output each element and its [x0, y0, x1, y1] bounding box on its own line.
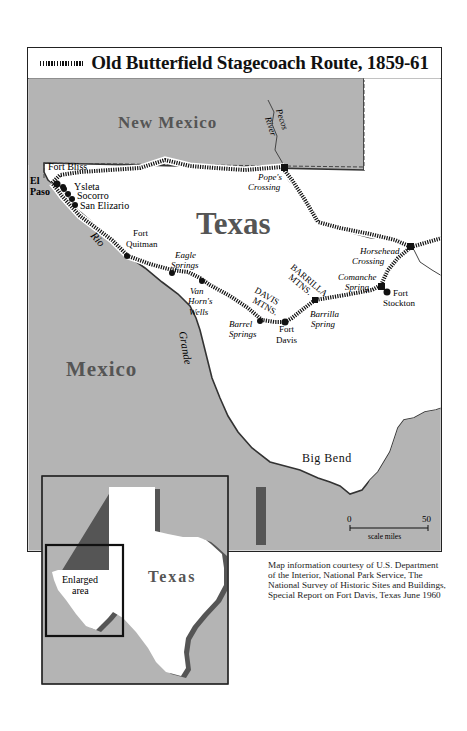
ysleta-marker — [65, 191, 71, 197]
svg-text:Crossing: Crossing — [248, 182, 281, 192]
comanche-spring-marker — [378, 283, 385, 290]
svg-text:Springs: Springs — [171, 260, 199, 270]
label-popes-crossing: Pope's — [257, 172, 282, 182]
label-fort-davis: Fort — [279, 324, 295, 334]
svg-text:Paso: Paso — [30, 186, 50, 197]
map-credit: Map information courtesy of U.S. Departm… — [268, 560, 448, 600]
inset-label-texas: Texas — [148, 568, 197, 585]
horsehead-crossing-marker — [407, 243, 414, 250]
label-barrel-springs: Barrel — [229, 319, 253, 329]
label-fort-stockton: Fort — [393, 288, 409, 298]
scale-label: scale miles — [368, 532, 401, 541]
san-elizario-marker — [72, 202, 78, 208]
label-van-horns-wells: Van — [190, 286, 204, 296]
label-san-elizario: San Elizario — [80, 200, 129, 211]
popes-crossing-marker — [281, 164, 288, 171]
label-fort-quitman: Fort — [133, 228, 149, 238]
inset-shadow — [256, 487, 266, 545]
scale-max: 50 — [422, 514, 432, 524]
label-comanche-spring: Comanche — [338, 272, 377, 282]
fort-quitman-marker — [124, 253, 130, 259]
svg-text:Crossing: Crossing — [352, 256, 385, 266]
svg-text:Davis: Davis — [276, 335, 297, 345]
label-fort-bliss: Fort Bliss — [48, 161, 87, 172]
svg-text:Horn's: Horn's — [187, 296, 213, 306]
label-horsehead-crossing: Horsehead — [359, 246, 400, 256]
svg-text:Stockton: Stockton — [383, 298, 416, 308]
region-label-new-mexico: New Mexico — [118, 113, 217, 132]
region-label-texas: Texas — [196, 206, 271, 241]
fort-stockton-marker — [384, 289, 391, 296]
svg-text:Spring: Spring — [345, 282, 370, 292]
socorro-marker — [69, 196, 75, 202]
region-label-mexico: Mexico — [66, 357, 137, 381]
inset-label-enlarged: Enlarged — [62, 574, 98, 585]
svg-text:Wells: Wells — [189, 307, 209, 317]
svg-text:Quitman: Quitman — [126, 239, 158, 249]
label-eagle-springs: Eagle — [174, 250, 196, 260]
label-barrilla-spring: Barrilla — [310, 309, 340, 319]
barrel-springs-marker — [257, 318, 263, 324]
label-el-paso: El — [30, 175, 40, 186]
scale-min: 0 — [347, 514, 352, 524]
barrilla-spring-marker — [312, 297, 318, 303]
svg-text:area: area — [72, 585, 89, 596]
svg-text:Spring: Spring — [311, 319, 336, 329]
eagle-springs-marker — [169, 270, 175, 276]
el-paso-marker — [54, 181, 61, 188]
map-canvas: New Mexico Texas Mexico Big Bend Pecos R… — [0, 0, 467, 731]
region-label-big-bend: Big Bend — [302, 451, 352, 465]
van-horns-wells-marker — [199, 278, 205, 284]
svg-text:Springs: Springs — [229, 329, 257, 339]
